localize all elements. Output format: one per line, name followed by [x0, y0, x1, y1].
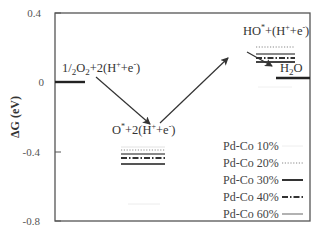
y-tick-label: -0.4 [23, 146, 41, 158]
arrow-o-to-ho [160, 58, 228, 123]
y-axis: 0.4 0 -0.4 -0.8 ΔG (eV) [8, 7, 61, 227]
label-ho-state: HO*+(H++e-) [243, 23, 309, 38]
arrow-start-to-o [96, 77, 150, 124]
legend: Pd-Co 10% Pd-Co 20% Pd-Co 30% Pd-Co 40% … [223, 139, 303, 221]
legend-label: Pd-Co 60% [223, 207, 279, 221]
y-tick-label: 0 [39, 76, 45, 88]
legend-label: Pd-Co 40% [223, 190, 279, 204]
label-start-state: 1/2O2+2(H++e-) [62, 60, 140, 77]
label-h2o-state: H2O [280, 61, 303, 77]
legend-label: Pd-Co 30% [223, 173, 279, 187]
o-state-levels [121, 147, 165, 204]
label-o-state: O*+2(H++e-) [112, 122, 176, 137]
y-tick-label: 0.4 [27, 7, 41, 19]
free-energy-diagram: 0.4 0 -0.4 -0.8 ΔG (eV) 1/2O2+2(H++e-) O… [0, 0, 318, 228]
legend-label: Pd-Co 20% [223, 156, 279, 170]
legend-label: Pd-Co 10% [223, 139, 279, 153]
y-tick-label: -0.8 [23, 215, 41, 227]
y-axis-title: ΔG (eV) [8, 96, 22, 138]
